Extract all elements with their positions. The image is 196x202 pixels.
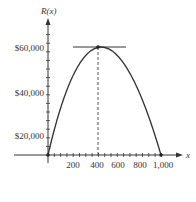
- y-tick-20000: $20,000: [15, 131, 45, 141]
- y-axis-arrow-icon: [46, 18, 51, 25]
- origin-point: [46, 153, 50, 157]
- x-axis-arrow-icon: [176, 153, 183, 158]
- x-tick-400: 400: [90, 160, 104, 170]
- y-axis-label: R(x): [40, 6, 57, 16]
- zero-point: [159, 153, 163, 157]
- max-point: [96, 45, 100, 49]
- revenue-curve: [48, 47, 161, 155]
- x-tick-1000: 1,000: [153, 160, 174, 170]
- x-tick-600: 600: [111, 160, 125, 170]
- x-axis-label: x: [185, 150, 190, 160]
- x-tick-200: 200: [66, 160, 80, 170]
- y-tick-60000: $60,000: [15, 43, 45, 53]
- x-tick-800: 800: [133, 160, 147, 170]
- revenue-chart: R(x) x $60,000 $40,000 $20,000 200 400 6…: [0, 0, 196, 202]
- y-tick-40000: $40,000: [15, 88, 45, 98]
